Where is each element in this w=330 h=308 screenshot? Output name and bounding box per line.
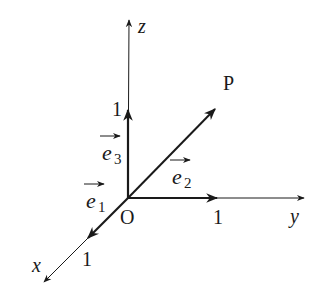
x-axis-label: x: [31, 254, 41, 276]
e3-base: e: [102, 140, 112, 165]
x-unit-label: 1: [82, 248, 92, 270]
e3-subscript: 3: [114, 151, 122, 167]
origin-label: O: [120, 206, 134, 228]
z-axis-label: z: [137, 15, 146, 37]
y-axis-label: y: [288, 205, 299, 228]
e1-subscript: 1: [98, 199, 106, 215]
y-unit-label: 1: [213, 206, 223, 228]
e1-label: e 1: [84, 184, 106, 215]
e1-base: e: [86, 188, 96, 213]
e2-subscript: 2: [184, 175, 192, 191]
coordinate-diagram: z y x 1 1 1 O P e 3 e 1 e 2: [0, 0, 330, 308]
e2-label: e 2: [170, 160, 192, 191]
e2-base: e: [172, 164, 182, 189]
z-unit-label: 1: [112, 98, 122, 120]
point-p-label: P: [223, 72, 234, 94]
e3-label: e 3: [100, 136, 122, 167]
